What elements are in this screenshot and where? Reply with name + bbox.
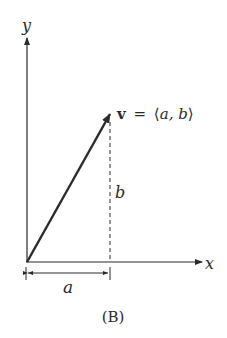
vector-components: a, b [160,105,188,123]
vector-name: v [116,105,127,123]
horizontal-component-label: a [63,277,73,297]
x-axis-label: x [205,254,214,273]
figure-caption: (B) [102,308,125,326]
vector-equation-label: v = ⟨a, b⟩ [116,105,194,123]
vertical-component-label: b [115,183,125,202]
vector-v-arrow [27,114,110,262]
close-angle-bracket: ⟩ [188,105,194,123]
equals-sign: = [134,105,147,123]
y-axis-label: y [21,16,32,35]
bracket-left-arrowhead [28,271,33,275]
vector-component-diagram: y x v = ⟨a, b⟩ b a (B) [0,0,227,338]
